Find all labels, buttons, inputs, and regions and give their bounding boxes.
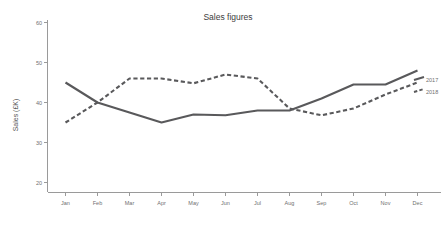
y-tick-label: 50 [36,60,42,66]
x-tick-label: Sep [317,200,327,206]
x-tick-label: Dec [413,200,423,206]
x-tick-label: Nov [381,200,391,206]
legend-swatch-2018 [414,89,424,92]
series-line-2017 [66,71,418,123]
x-tick-label: Jul [254,200,261,206]
x-tick-label: May [188,200,199,206]
y-tick-label: 40 [36,100,42,106]
chart-legend: 2017 2018 [414,77,438,95]
chart-canvas: Sales figures Sales (£K) 60 50 40 30 20 … [0,0,448,226]
x-tick-label: Mar [125,200,135,206]
y-tick-label: 20 [36,180,42,186]
y-axis-title: Sales (£K) [12,99,20,132]
y-tick-label: 30 [36,140,42,146]
legend-label-2018: 2018 [426,89,438,95]
x-tick-label: Feb [93,200,102,206]
legend-label-2017: 2017 [426,77,438,83]
x-tick-label: Apr [157,200,166,206]
x-tick-label: Aug [285,200,295,206]
x-tick-label: Jun [221,200,230,206]
chart-title: Sales figures [203,12,252,22]
legend-swatch-2017 [414,77,424,80]
sales-figures-chart: Sales figures Sales (£K) 60 50 40 30 20 … [0,0,448,226]
x-tick-label: Oct [349,200,358,206]
y-tick-label: 60 [36,20,42,26]
y-axis-ticks: 60 50 40 30 20 [36,20,48,186]
series-line-2018 [66,75,418,123]
x-tick-label: Jan [61,200,70,206]
x-axis-ticks: Jan Feb Mar Apr May Jun Jul Aug Sep Oct … [61,193,423,207]
